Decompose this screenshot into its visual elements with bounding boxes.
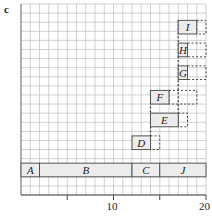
bar-a-label: A [26,164,34,176]
bar-d-slack [151,136,160,150]
x-tick-label: 20 [199,200,210,212]
x-tick-label: 10 [107,200,118,212]
bar-e-slack [178,113,187,127]
bar-b-label: B [82,164,89,176]
bar-g-label: G [179,67,187,79]
bar-c-label: C [142,164,150,176]
bar-e-label: E [160,114,168,126]
gantt-diagram: ABCJDEFGHI [0,0,212,217]
bar-h-label: H [178,44,188,56]
bar-d-label: D [136,137,145,149]
bar-f-label: F [155,91,163,103]
bar-f-slack [169,90,197,104]
